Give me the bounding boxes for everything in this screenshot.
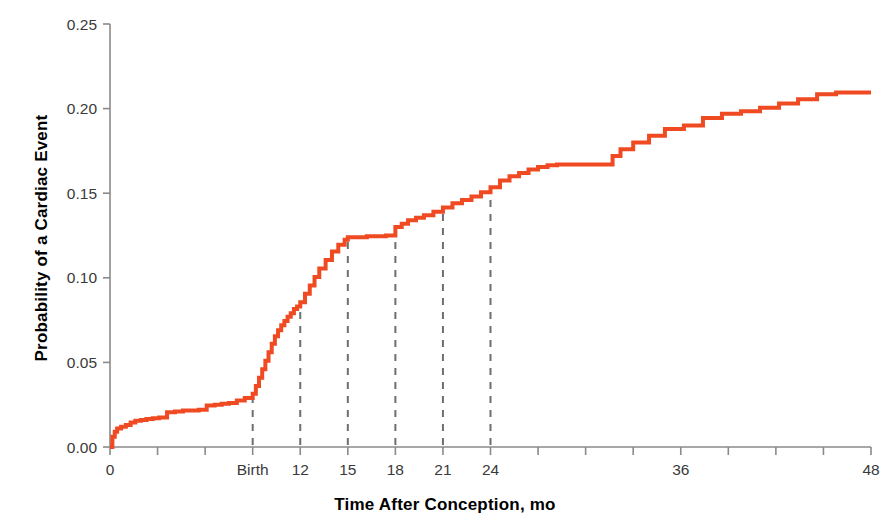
cardiac-event-probability-chart: 0.000.050.100.150.200.25 0Birth121518212…: [0, 0, 890, 530]
x-axis-ticks: 0Birth12151821243648: [106, 447, 880, 478]
x-tick-label: 21: [434, 461, 451, 478]
x-tick-label: 36: [672, 461, 689, 478]
x-tick-label: 24: [482, 461, 500, 478]
y-tick-label: 0.05: [67, 354, 97, 371]
y-tick-label: 0.10: [67, 269, 98, 286]
y-tick-label: 0.00: [67, 439, 98, 456]
probability-step-curve: [110, 93, 871, 447]
y-axis-ticks: 0.000.050.100.150.200.25: [67, 16, 110, 456]
y-axis-title: Probability of a Cardiac Event: [32, 28, 52, 448]
x-tick-label: 48: [862, 461, 879, 478]
x-axis-title: Time After Conception, mo: [0, 495, 890, 515]
x-tick-label: 15: [339, 461, 356, 478]
x-tick-label: Birth: [237, 461, 269, 478]
y-tick-label: 0.15: [67, 185, 97, 202]
y-tick-label: 0.20: [67, 100, 98, 117]
y-tick-label: 0.25: [67, 16, 97, 33]
x-tick-label: 12: [292, 461, 309, 478]
x-tick-label: 18: [387, 461, 404, 478]
figure-container: 0.000.050.100.150.200.25 0Birth121518212…: [0, 0, 890, 530]
x-tick-label: 0: [106, 461, 115, 478]
